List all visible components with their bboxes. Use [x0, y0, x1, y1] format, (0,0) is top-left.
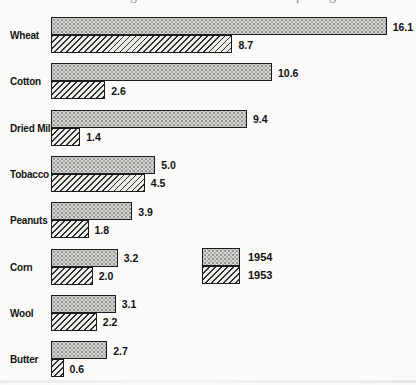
bar-1954-wheat [51, 17, 387, 35]
category-label-wheat: Wheat [10, 30, 52, 41]
value-label-1953-wool: 2.2 [103, 316, 118, 328]
legend-label-1953: 1953 [248, 269, 272, 281]
value-label-1954-peanuts: 3.9 [138, 206, 153, 218]
legend-label-1954: 1954 [248, 251, 272, 263]
value-label-1954-wool: 3.1 [122, 298, 137, 310]
value-label-1954-tobacco: 5.0 [161, 159, 176, 171]
bar-1953-dried-milk [51, 128, 80, 146]
scan-smudge [0, 380, 416, 383]
bar-1953-cotton [51, 81, 105, 99]
value-label-1953-cotton: 2.6 [111, 85, 126, 97]
bar-1953-wheat [51, 35, 232, 53]
category-label-butter: Butter [10, 354, 52, 365]
bar-1954-tobacco [51, 156, 155, 174]
bar-1953-tobacco [51, 174, 145, 192]
category-label-dried-milk: Dried Milk [10, 122, 52, 133]
category-label-corn: Corn [10, 261, 52, 272]
value-label-1953-tobacco: 4.5 [151, 177, 166, 189]
value-label-1953-corn: 2.0 [99, 270, 114, 282]
value-label-1954-butter: 2.7 [113, 345, 128, 357]
bar-1954-corn [51, 249, 118, 267]
bar-1954-butter [51, 341, 107, 359]
value-label-1953-butter: 0.6 [70, 363, 85, 375]
value-label-1953-peanuts: 1.8 [95, 224, 110, 236]
bar-1954-cotton [51, 63, 272, 81]
value-label-1954-corn: 3.2 [124, 252, 139, 264]
category-label-peanuts: Peanuts [10, 215, 52, 226]
value-label-1953-dried-milk: 1.4 [86, 131, 101, 143]
category-label-cotton: Cotton [10, 76, 52, 87]
value-label-1954-wheat: 16.1 [393, 21, 413, 33]
bar-1953-peanuts [51, 220, 89, 238]
bar-1953-butter [51, 359, 64, 377]
category-label-wool: Wool [10, 307, 52, 318]
value-label-1953-wheat: 8.7 [238, 39, 253, 51]
bar-chart: Wheat16.18.7Cotton10.62.6Dried Milk9.41.… [0, 0, 416, 385]
bar-1954-wool [51, 295, 116, 313]
bar-1953-wool [51, 313, 97, 331]
value-label-1954-cotton: 10.6 [278, 67, 298, 79]
bar-1954-dried-milk [51, 110, 247, 128]
legend-swatch-1953 [202, 266, 240, 284]
category-label-tobacco: Tobacco [10, 168, 52, 179]
bar-1953-corn [51, 267, 93, 285]
bar-1954-peanuts [51, 202, 132, 220]
legend-swatch-1954 [202, 248, 240, 266]
value-label-1954-dried-milk: 9.4 [253, 113, 268, 125]
